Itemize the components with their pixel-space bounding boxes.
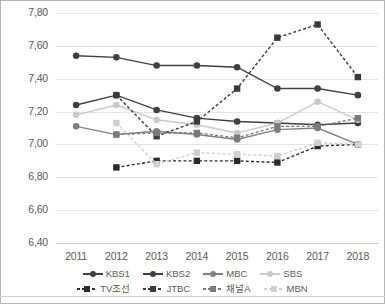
legend-label: SBS	[283, 269, 302, 279]
data-point	[234, 85, 240, 91]
legend-circle-marker-icon	[90, 271, 96, 277]
legend-square-marker-icon	[271, 286, 277, 292]
data-point	[153, 62, 160, 69]
series-plot	[0, 0, 385, 304]
data-point	[153, 161, 159, 167]
data-point	[355, 92, 362, 99]
legend-swatch-icon	[77, 284, 97, 293]
data-point	[314, 85, 321, 92]
data-point	[194, 158, 200, 164]
data-point	[73, 102, 80, 109]
data-point	[355, 115, 361, 121]
legend-label: JTBC	[166, 284, 190, 294]
legend-swatch-icon	[264, 284, 284, 293]
data-point	[355, 74, 361, 80]
legend-swatch-icon	[203, 269, 223, 278]
legend-row-secondary: TV조선JTBC채널AMBN	[0, 281, 385, 296]
legend-label: KBS2	[166, 269, 190, 279]
data-point	[113, 120, 119, 126]
data-point	[113, 102, 120, 109]
legend-swatch-icon	[143, 269, 163, 278]
data-point	[113, 131, 119, 137]
legend-label: TV조선	[100, 284, 130, 294]
legend-item-MBC[interactable]: MBC	[203, 269, 247, 279]
data-point	[194, 149, 200, 155]
data-point	[234, 158, 240, 164]
legend-swatch-icon	[83, 269, 103, 278]
legend-label: MBC	[226, 269, 247, 279]
legend-item-TV조선[interactable]: TV조선	[77, 284, 130, 294]
data-point	[153, 116, 160, 123]
data-point	[73, 52, 80, 59]
data-point	[314, 21, 320, 27]
data-point	[73, 123, 80, 130]
legend-label: 채널A	[226, 284, 250, 294]
data-point	[113, 92, 119, 98]
data-point	[194, 118, 200, 124]
data-point	[274, 85, 281, 92]
data-point	[194, 130, 200, 136]
data-point	[113, 164, 119, 170]
legend-swatch-icon	[143, 284, 163, 293]
data-point	[314, 123, 320, 129]
legend-square-marker-icon	[150, 286, 156, 292]
chart-legend: KBS1KBS2MBCSBS TV조선JTBC채널AMBN	[0, 266, 385, 296]
legend-square-marker-icon	[210, 286, 216, 292]
legend-label: MBN	[287, 284, 308, 294]
legend-circle-marker-icon	[150, 271, 156, 277]
data-point	[274, 153, 280, 159]
legend-circle-marker-icon	[210, 271, 216, 277]
data-point	[274, 34, 280, 40]
legend-item-JTBC[interactable]: JTBC	[143, 284, 190, 294]
data-point	[234, 151, 240, 157]
data-point	[355, 141, 361, 147]
legend-row-primary: KBS1KBS2MBCSBS	[0, 266, 385, 281]
data-point	[314, 98, 321, 105]
legend-swatch-icon	[203, 284, 223, 293]
legend-item-KBS1[interactable]: KBS1	[83, 269, 130, 279]
data-point	[194, 62, 201, 69]
data-point	[234, 135, 240, 141]
data-point	[274, 159, 280, 165]
data-point	[73, 112, 80, 119]
legend-label: KBS1	[106, 269, 130, 279]
data-point	[153, 130, 159, 136]
data-point	[234, 64, 241, 71]
series-KBS1	[73, 52, 361, 98]
legend-item-KBS2[interactable]: KBS2	[143, 269, 190, 279]
line-chart: 7,807,607,407,207,006,806,606,40 2011201…	[0, 0, 385, 304]
legend-circle-marker-icon	[267, 271, 273, 277]
legend-swatch-icon	[260, 269, 280, 278]
data-point	[113, 54, 120, 61]
legend-item-채널A[interactable]: 채널A	[203, 284, 250, 294]
data-point	[274, 123, 280, 129]
legend-item-SBS[interactable]: SBS	[260, 269, 302, 279]
legend-item-MBN[interactable]: MBN	[264, 284, 308, 294]
data-point	[234, 118, 241, 125]
data-point	[153, 107, 160, 114]
legend-square-marker-icon	[84, 286, 90, 292]
data-point	[314, 140, 320, 146]
